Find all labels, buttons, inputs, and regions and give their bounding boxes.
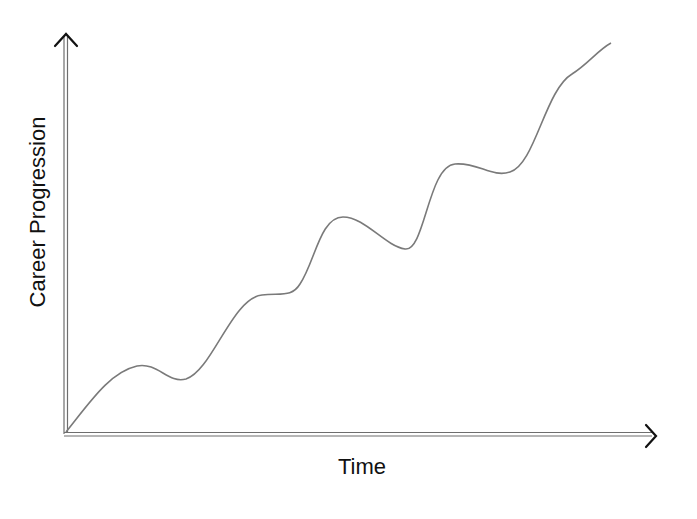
y-axis: [55, 34, 77, 434]
career-curve: [66, 43, 611, 432]
career-progression-diagram: Time Career Progression: [0, 0, 697, 519]
x-axis-label: Time: [338, 454, 386, 479]
y-axis-label: Career Progression: [25, 117, 50, 308]
x-axis: [64, 425, 656, 447]
y-axis-arrowhead-icon: [55, 34, 77, 46]
